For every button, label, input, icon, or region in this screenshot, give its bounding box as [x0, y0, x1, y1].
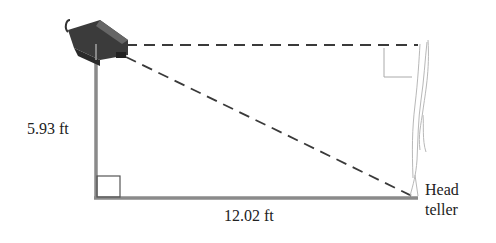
hypotenuse-sightline — [126, 57, 412, 196]
head-teller-figure — [410, 40, 428, 196]
vertical-side-label: 5.93 ft — [27, 120, 69, 138]
head-teller-label: Head teller — [425, 180, 459, 220]
security-camera-icon — [66, 20, 128, 66]
head-teller-label-line1: Head — [425, 180, 459, 200]
top-right-angle-marker — [384, 48, 412, 77]
right-angle-marker — [97, 176, 120, 197]
horizontal-side-label: 12.02 ft — [224, 207, 274, 225]
head-teller-label-line2: teller — [425, 200, 459, 220]
